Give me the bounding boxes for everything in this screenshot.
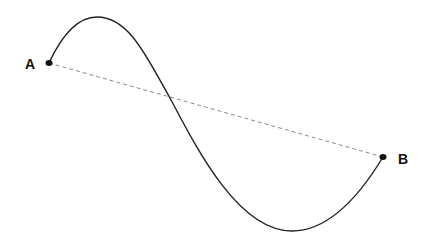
point-a-dot [46,60,53,66]
diagram-canvas: A B [0,0,431,245]
point-a-label: A [25,56,35,72]
point-b-dot [380,154,387,160]
point-b-label: B [398,151,408,167]
sinuous-curve [49,17,383,231]
dashed-straight-line [49,63,383,157]
